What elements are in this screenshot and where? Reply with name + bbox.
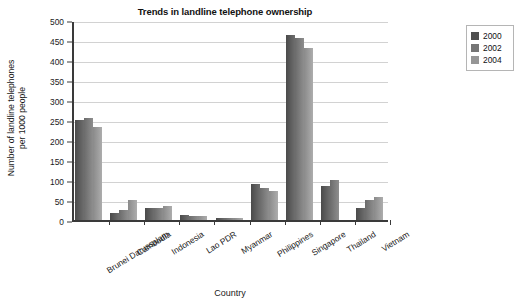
legend: 200020022004 [466, 25, 514, 71]
bar-chart: Trends in landline telephone ownership N… [0, 0, 514, 308]
x-axis-tick-label: Singapore [310, 229, 348, 258]
x-axis-tick-label: Thailand [344, 229, 377, 255]
legend-item[interactable]: 2000 [471, 30, 510, 42]
x-axis-tick-label: Lao PDR [204, 229, 238, 255]
x-axis-tick-label: Myanmar [240, 229, 275, 256]
legend-item[interactable]: 2002 [471, 42, 510, 54]
legend-item[interactable]: 2004 [471, 54, 510, 66]
x-axis-tick-label: Philippines [275, 229, 315, 259]
legend-label: 2002 [483, 43, 502, 53]
legend-label: 2000 [483, 31, 502, 41]
x-axis-tick-labels: Brunei DarussalamCambodiaIndonesiaLao PD… [0, 0, 514, 308]
x-axis-title: Country [72, 288, 388, 298]
legend-label: 2004 [483, 55, 502, 65]
legend-swatch-icon [471, 56, 479, 64]
x-axis-tick-label: Indonesia [170, 229, 206, 257]
legend-swatch-icon [471, 32, 479, 40]
x-axis-tick-label: Vietnam [379, 229, 410, 254]
legend-swatch-icon [471, 44, 479, 52]
